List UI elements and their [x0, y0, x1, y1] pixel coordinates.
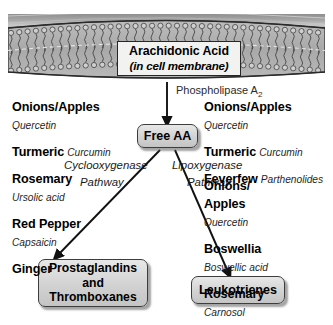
ingredient-name: Onions/Apples — [204, 100, 292, 114]
ingredient-name: Red Pepper — [12, 217, 81, 231]
ingredient-compound: Carnosol — [204, 307, 245, 318]
ingredient-name: Turmeric — [204, 145, 256, 159]
phospholipase-name: Phospholipase A — [176, 84, 258, 96]
ingredient-compound: Boswellic acid — [204, 262, 268, 273]
ingredient-entry: Ginger — [12, 259, 120, 277]
free-aa-node[interactable]: Free AA — [137, 124, 198, 148]
prostaglandins-line-2: and — [49, 276, 137, 291]
ingredient-name: Rosemary — [204, 287, 264, 301]
ingredient-entry: TurmericCurcumin — [204, 142, 328, 160]
prostaglandins-line-3: Thromboxanes — [49, 290, 137, 305]
ingredient-entry: Onions/ApplesQuercetin — [204, 97, 328, 133]
ingredient-entry: RosemaryUrsolic acid — [12, 169, 120, 205]
ingredient-compound: Curcumin — [259, 147, 303, 158]
ingredient-compound: Quercetin — [12, 120, 56, 131]
ingredient-entry: Onions/ApplesQuercetin — [12, 97, 120, 133]
free-aa-label: Free AA — [144, 129, 191, 143]
ingredient-compound: Quercetin — [204, 217, 248, 228]
arachidonic-acid-pathway-diagram: Arachidonic Acid (in cell membrane) Phos… — [0, 0, 333, 325]
ingredient-name: Turmeric — [12, 145, 64, 159]
ingredient-name: Rosemary — [12, 172, 72, 186]
ingredient-entry: BoswelliaBoswellic acid — [204, 239, 328, 275]
shared-inhibitor-list: Onions/ApplesQuercetinTurmericCurcuminFe… — [204, 97, 328, 187]
ingredient-name: Boswellia — [204, 242, 261, 256]
ingredient-entry: RosemaryCarnosol — [204, 284, 328, 320]
lox-inhibitor-list: Onions/ApplesQuercetinBoswelliaBoswellic… — [204, 176, 328, 320]
ingredient-compound: Capsaicin — [12, 237, 57, 248]
ingredient-name: Ginger — [12, 262, 52, 276]
ingredient-compound: Curcumin — [67, 147, 111, 158]
ingredient-entry: TurmericCurcumin — [12, 142, 120, 160]
ingredient-entry: Onions/ApplesQuercetin — [204, 176, 328, 230]
cox-inhibitor-list: Onions/ApplesQuercetinTurmericCurcuminRo… — [12, 97, 120, 277]
ingredient-compound: Ursolic acid — [12, 192, 65, 203]
ingredient-entry: Red PepperCapsaicin — [12, 214, 120, 250]
ingredient-name: Onions/Apples — [204, 179, 250, 211]
ingredient-name: Onions/Apples — [12, 100, 100, 114]
ingredient-compound: Quercetin — [204, 120, 248, 131]
